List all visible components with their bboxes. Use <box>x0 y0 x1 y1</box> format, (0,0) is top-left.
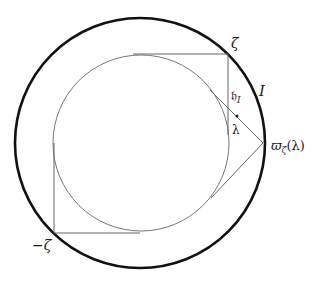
label-neg-zeta: −ζ <box>32 237 53 253</box>
label-varpi-zeta-lambda: ϖζ(λ) <box>271 138 305 155</box>
tangent-lines <box>210 90 263 198</box>
lambda-point <box>236 115 239 118</box>
label-zeta: ζ <box>231 35 240 51</box>
label-arc-I: I <box>258 82 266 100</box>
label-h-I: 𝔥I <box>231 88 241 105</box>
label-lambda: λ <box>232 123 240 137</box>
inner-circle <box>53 55 229 231</box>
diagram-canvas: ζ −ζ 𝔥I I λ ϖζ(λ) <box>0 0 320 283</box>
